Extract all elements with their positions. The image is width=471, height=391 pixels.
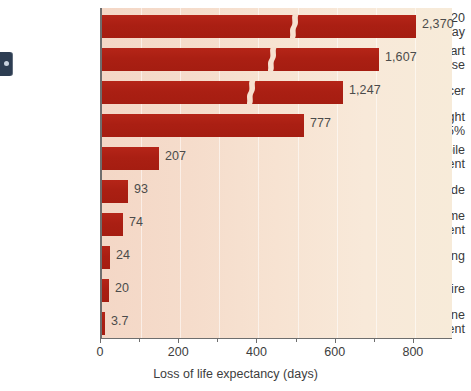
bar [102, 180, 128, 203]
bar [102, 213, 123, 236]
bar-value-label: 207 [165, 149, 186, 163]
bar-row: 207 [102, 147, 454, 170]
x-minor-tick-100 [139, 338, 140, 342]
bar-row: 1,607 [102, 48, 454, 71]
bar-row: 93 [102, 180, 454, 203]
bar [102, 312, 105, 335]
bar [102, 279, 109, 302]
page-marker-dot [4, 61, 9, 66]
x-minor-tick-500 [296, 338, 297, 342]
bar [102, 246, 110, 269]
x-minor-tick-300 [217, 338, 218, 342]
bar-row: 3.7 [102, 312, 454, 335]
life-expectancy-bar-chart: Smoking 20 cigarettes a dayHeart disease… [0, 0, 471, 391]
x-tick-label: 800 [402, 345, 423, 359]
bar-value-label: 93 [134, 182, 148, 196]
bar-value-label: 2,370 [422, 17, 454, 31]
bar [102, 114, 304, 137]
x-minor-tick-700 [374, 338, 375, 342]
x-tick-400 [256, 338, 257, 343]
page-marker-tab[interactable] [0, 52, 13, 76]
bar-row: 24 [102, 246, 454, 269]
x-tick-0 [100, 338, 101, 343]
bar-value-label: 1,607 [385, 50, 417, 64]
bar-row: 74 [102, 213, 454, 236]
bar-value-label: 74 [129, 215, 143, 229]
bar-row: 2,370 [102, 15, 454, 38]
bar-value-label: 24 [116, 248, 130, 262]
bar-row: 777 [102, 114, 454, 137]
bar-value-label: 20 [115, 281, 129, 295]
x-tick-label: 600 [324, 345, 345, 359]
x-axis-line [100, 338, 452, 339]
bar [102, 15, 416, 38]
bar-row: 20 [102, 279, 454, 302]
bar [102, 147, 159, 170]
x-tick-label: 200 [168, 345, 189, 359]
x-tick-800 [413, 338, 414, 343]
bar-value-label: 1,247 [349, 83, 381, 97]
x-tick-200 [178, 338, 179, 343]
plot-area: 2,3701,6071,247777207937424203.7 [100, 8, 452, 338]
bar [102, 48, 379, 71]
bar-value-label: 3.7 [111, 314, 129, 328]
x-tick-600 [335, 338, 336, 343]
x-tick-label: 400 [246, 345, 267, 359]
x-axis-title: Loss of life expectancy (days) [0, 367, 471, 381]
bar-row: 1,247 [102, 81, 454, 104]
x-tick-label: 0 [97, 345, 104, 359]
bar [102, 81, 343, 104]
bar-value-label: 777 [310, 116, 331, 130]
